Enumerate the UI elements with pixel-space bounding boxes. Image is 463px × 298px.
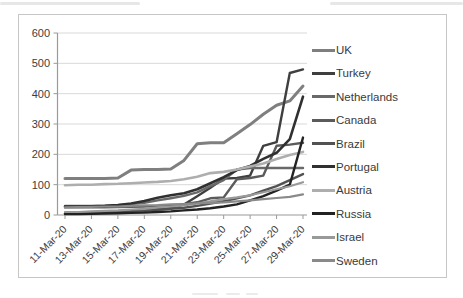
legend-item-sweden: Sweden: [312, 254, 444, 268]
legend-item-canada: Canada: [312, 113, 444, 127]
legend-label: Canada: [336, 114, 376, 126]
y-axis-label: 600: [24, 27, 50, 39]
legend-label: Israel: [336, 231, 364, 243]
legend-item-russia: Russia: [312, 207, 444, 221]
legend-label: Portugal: [336, 161, 379, 173]
legend-line-swatch: [312, 259, 335, 262]
y-axis-label: 300: [24, 118, 50, 130]
scan-artifact: [192, 293, 218, 295]
series-line-netherlands: [65, 168, 303, 206]
legend-line-swatch: [312, 236, 335, 239]
legend-line-swatch: [312, 49, 335, 52]
scan-artifact: [226, 293, 240, 295]
y-axis-label: 100: [24, 179, 50, 191]
legend-line-swatch: [312, 72, 335, 75]
legend-item-israel: Israel: [312, 230, 444, 244]
legend-item-brazil: Brazil: [312, 137, 444, 151]
legend-item-netherlands: Netherlands: [312, 90, 444, 104]
legend-line-swatch: [312, 119, 335, 122]
legend-item-uk: UK: [312, 43, 444, 57]
chart-legend: UK Turkey Netherlands Canada Brazil Port…: [312, 43, 444, 268]
legend-line-swatch: [312, 189, 335, 192]
legend-line-swatch: [312, 212, 335, 215]
series-line-russia: [65, 138, 303, 215]
y-axis-label: 200: [24, 148, 50, 160]
scan-artifact: [246, 293, 258, 295]
y-axis-label: 400: [24, 88, 50, 100]
legend-label: Turkey: [336, 67, 371, 79]
legend-label: Austria: [336, 184, 372, 196]
legend-line-swatch: [312, 95, 335, 98]
legend-label: Brazil: [336, 138, 365, 150]
legend-item-austria: Austria: [312, 183, 444, 197]
series-line-canada: [65, 143, 303, 208]
legend-line-swatch: [312, 165, 335, 168]
legend-item-turkey: Turkey: [312, 66, 444, 80]
legend-label: Sweden: [336, 255, 378, 267]
legend-label: Netherlands: [336, 91, 398, 103]
legend-line-swatch: [312, 142, 335, 145]
legend-label: Russia: [336, 208, 371, 220]
y-axis-label: 0: [24, 209, 50, 221]
legend-item-portugal: Portugal: [312, 160, 444, 174]
legend-label: UK: [336, 44, 352, 56]
y-axis-label: 500: [24, 57, 50, 69]
